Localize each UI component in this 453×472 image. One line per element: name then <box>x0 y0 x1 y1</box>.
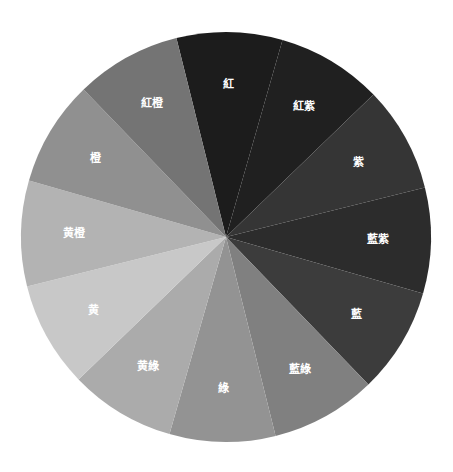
slice-label: 藍 <box>351 307 362 321</box>
slice-label: 黄綠 <box>137 359 160 373</box>
slice-label: 紫 <box>353 155 364 169</box>
slice-label: 綠 <box>218 381 230 395</box>
slice-label: 藍綠 <box>289 362 312 376</box>
pie-chart: 紅紅紫紫藍紫藍藍綠綠黄綠黄黄橙橙紅橙 <box>0 0 453 472</box>
slice-label: 藍紫 <box>367 232 389 246</box>
slice-label: 紅紫 <box>293 99 315 113</box>
slice-label: 橙 <box>90 151 102 165</box>
slice-label: 黄 <box>88 303 99 317</box>
slice-label: 紅橙 <box>141 96 164 110</box>
slice-label: 紅 <box>223 77 234 91</box>
slice-label: 黄橙 <box>63 226 86 240</box>
